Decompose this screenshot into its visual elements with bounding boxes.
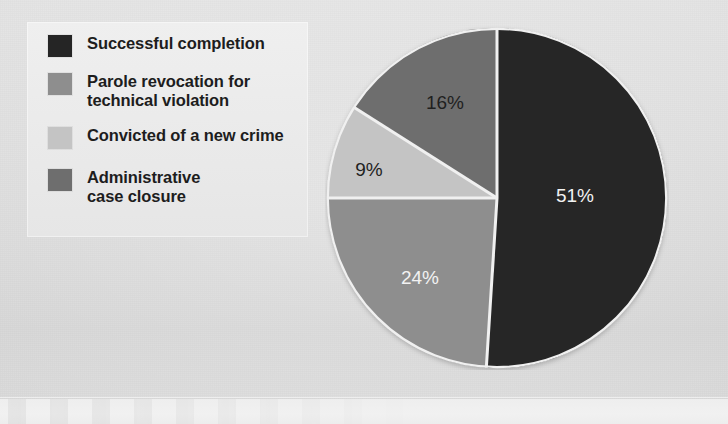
legend-label-convicted-new-crime: Convicted of a new crime <box>87 126 284 145</box>
legend-swatch-administrative-closure <box>48 169 72 191</box>
figure-pie-chart-outcomes: Successful completion Parole revocation … <box>0 0 728 424</box>
legend-label-administrative-closure: Administrative case closure <box>87 168 200 206</box>
pie-slice-value-label: 9% <box>355 159 383 180</box>
legend-swatch-convicted-new-crime <box>48 127 72 149</box>
legend-item-successful-completion[interactable]: Successful completion <box>48 34 265 57</box>
bottom-margin-strip <box>0 399 728 424</box>
legend-label-parole-revocation: Parole revocation for technical violatio… <box>87 72 250 110</box>
pie-chart-svg: 51%24%9%16% <box>325 26 669 370</box>
pie-slice-value-label: 16% <box>426 92 464 113</box>
legend-item-convicted-new-crime[interactable]: Convicted of a new crime <box>48 126 284 149</box>
pie-chart: 51%24%9%16% <box>325 26 669 370</box>
pie-slice-value-label: 51% <box>556 185 594 206</box>
pie-slice-value-label: 24% <box>401 267 439 288</box>
chart-legend: Successful completion Parole revocation … <box>27 22 308 237</box>
legend-item-list: Successful completion Parole revocation … <box>27 22 308 237</box>
legend-swatch-parole-revocation <box>48 73 72 95</box>
legend-item-administrative-closure[interactable]: Administrative case closure <box>48 168 200 206</box>
legend-label-successful-completion: Successful completion <box>87 34 265 53</box>
legend-swatch-successful-completion <box>48 35 72 57</box>
legend-item-parole-revocation[interactable]: Parole revocation for technical violatio… <box>48 72 250 110</box>
